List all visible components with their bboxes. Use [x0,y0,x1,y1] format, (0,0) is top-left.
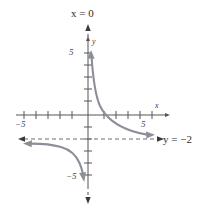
vertical-asymptote-label: x = 0 [71,8,94,19]
horizontal-asymptote-label: y = −2 [163,134,192,145]
x-tick-label-minus-5: −5 [15,120,26,129]
y-tick-label-minus-5: −5 [66,172,77,181]
vertical-asymptote-arrow-bottom [85,197,90,204]
vertical-asymptote-arrow-top [85,24,90,31]
x-axis-label: x [155,102,159,110]
curve-right-arrowhead [146,131,155,138]
y-axis-label: y [92,38,96,46]
curve-left-arrowhead-down [79,172,86,182]
coordinate-plane-svg [0,0,212,211]
curve-right-arrowhead-up [88,50,95,59]
x-axis-arrowhead [165,113,170,117]
y-tick-label-5: 5 [69,48,74,57]
horizontal-asymptote-y-equals-minus-2 [18,136,164,142]
curve-right-path [92,57,147,135]
x-axis [16,111,170,119]
horizontal-asymptote-arrow-left [18,136,25,142]
curve-left-path [31,144,83,174]
y-axis-arrowhead [86,36,90,41]
x-tick-label-5: 5 [141,120,146,129]
graph-figure: x = 0 y = −2 y x 5 −5 5 −5 [0,0,212,211]
